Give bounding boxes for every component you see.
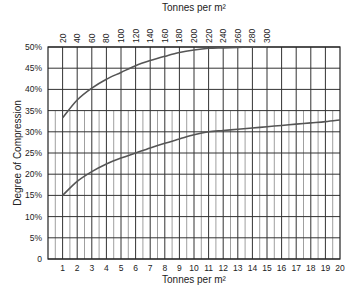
x-top-axis-title: Tonnes per m²: [162, 2, 227, 13]
x-top-tick-label: 40: [72, 33, 82, 43]
x-top-tick-label: 180: [174, 29, 184, 43]
x-tick-label: 11: [204, 263, 213, 273]
x-top-tick-label: 140: [145, 29, 155, 43]
y-tick-labels: 05%10%15%20%25%30%35%40%45%50%: [25, 42, 42, 264]
chart: 05%10%15%20%25%30%35%40%45%50% 123456789…: [0, 0, 355, 297]
x-tick-labels: 1234567891011121314151617181920: [60, 263, 345, 273]
x-tick-label: 15: [262, 263, 272, 273]
x-tick-label: 12: [218, 263, 228, 273]
x-top-tick-label: 240: [218, 29, 228, 43]
x-top-tick-label: 160: [160, 29, 170, 43]
x-tick-label: 6: [133, 263, 138, 273]
x-tick-label: 7: [148, 263, 153, 273]
x-tick-label: 1: [60, 263, 65, 273]
x-tick-label: 13: [233, 263, 243, 273]
x-tick-label: 18: [306, 263, 316, 273]
x-top-tick-label: 60: [87, 33, 97, 43]
x-axis-title: Tonnes per m²: [162, 274, 227, 285]
x-top-tick-label: 20: [58, 33, 68, 43]
x-tick-label: 5: [119, 263, 124, 273]
x-tick-label: 19: [321, 263, 331, 273]
x-top-tick-label: 300: [262, 29, 272, 43]
x-tick-label: 10: [189, 263, 199, 273]
y-tick-label: 5%: [30, 233, 43, 243]
x-tick-label: 14: [248, 263, 258, 273]
x-top-tick-label: 280: [247, 29, 257, 43]
x-top-tick-label: 260: [233, 29, 243, 43]
x-top-tick-labels: 2040608010012014016018020022024026028030…: [58, 29, 272, 43]
y-tick-label: 40%: [25, 84, 42, 94]
x-top-tick-label: 220: [204, 29, 214, 43]
x-tick-label: 16: [277, 263, 287, 273]
y-tick-label: 50%: [25, 42, 42, 52]
y-axis-title: Degree of Compression: [12, 100, 23, 206]
y-tick-label: 0: [37, 254, 42, 264]
x-tick-label: 17: [291, 263, 301, 273]
y-tick-label: 45%: [25, 63, 42, 73]
x-top-tick-label: 120: [131, 29, 141, 43]
x-top-tick-label: 80: [101, 33, 111, 43]
y-tick-label: 25%: [25, 148, 42, 158]
y-tick-label: 15%: [25, 190, 42, 200]
x-tick-label: 4: [104, 263, 109, 273]
y-tick-label: 10%: [25, 212, 42, 222]
x-tick-label: 2: [75, 263, 80, 273]
x-tick-label: 8: [162, 263, 167, 273]
x-tick-label: 3: [89, 263, 94, 273]
y-tick-label: 20%: [25, 169, 42, 179]
x-tick-label: 20: [335, 263, 345, 273]
x-top-tick-label: 100: [116, 29, 126, 43]
y-tick-label: 30%: [25, 127, 42, 137]
grid: [48, 47, 340, 259]
y-tick-label: 35%: [25, 106, 42, 116]
x-top-tick-label: 200: [189, 29, 199, 43]
x-tick-label: 9: [177, 263, 182, 273]
